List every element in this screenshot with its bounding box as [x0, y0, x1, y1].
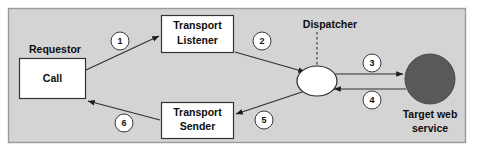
call-box[interactable]: Call [20, 59, 86, 99]
transport-sender-box[interactable]: Transport Sender [162, 103, 234, 139]
sequence-badge-4: 4 [363, 91, 381, 109]
target-web-service-label-line1: Target web [403, 108, 458, 120]
transport-listener-box[interactable]: Transport Listener [162, 16, 234, 53]
sequence-badge-3: 3 [363, 54, 381, 72]
requestor-group-label: Requestor [29, 43, 81, 55]
dispatcher-ellipse-shape [297, 66, 337, 96]
diagram-canvas: Requestor Call Transport Listener Transp… [0, 0, 478, 155]
sequence-badge-1-number: 1 [117, 36, 122, 46]
transport-listener-label-line1: Transport [173, 19, 222, 31]
sequence-badge-4-number: 4 [369, 95, 374, 105]
sequence-badge-1: 1 [111, 32, 129, 50]
sequence-badge-6: 6 [115, 114, 133, 132]
transport-listener-label-line2: Listener [177, 34, 218, 46]
sequence-badge-5: 5 [255, 111, 273, 129]
dispatcher-label: Dispatcher [303, 18, 357, 30]
sequence-badge-3-number: 3 [369, 58, 374, 68]
target-web-service-circle-shape [405, 54, 455, 104]
diagram-svg: Requestor Call Transport Listener Transp… [0, 0, 478, 155]
sequence-badge-5-number: 5 [261, 115, 266, 125]
sequence-badge-2-number: 2 [259, 36, 264, 46]
call-box-label: Call [43, 72, 62, 84]
target-web-service-node[interactable] [405, 54, 455, 104]
target-web-service-label-line2: service [412, 122, 448, 134]
transport-sender-label-line2: Sender [180, 120, 216, 132]
sequence-badge-2: 2 [253, 32, 271, 50]
transport-sender-label-line1: Transport [173, 106, 222, 118]
dispatcher-node[interactable] [297, 66, 337, 96]
sequence-badge-6-number: 6 [121, 118, 126, 128]
